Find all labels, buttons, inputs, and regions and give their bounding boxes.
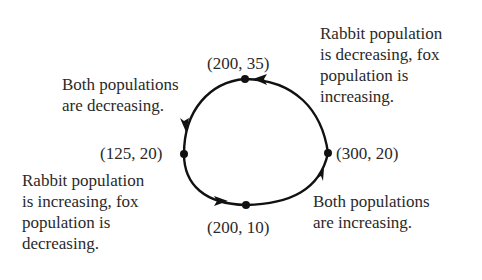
label-right: (300, 20) [336,144,398,164]
label-left: (125, 20) [100,144,162,164]
label-top: (200, 35) [207,54,269,74]
annotation-bottom-left: Rabbit population is increasing, fox pop… [22,170,144,254]
arc-right-to-top [245,79,328,153]
point-right [324,149,332,157]
annotation-top-right: Rabbit population is decreasing, fox pop… [320,23,442,107]
arc-top-to-left [184,79,245,154]
annotation-top-left: Both populations are decreasing. [62,74,179,116]
point-bottom [242,201,250,209]
point-top [241,75,249,83]
point-left [180,150,188,158]
label-bottom: (200, 10) [207,218,269,238]
arrow-icon [253,74,267,85]
annotation-bottom-right: Both populations are increasing. [313,191,430,233]
